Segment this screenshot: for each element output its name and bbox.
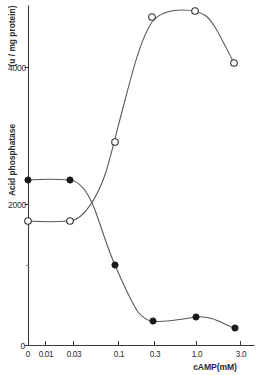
open-series-curve xyxy=(28,10,234,222)
filled-marker-0.03 xyxy=(67,177,73,183)
y-axis-title-units: (u / mg protein) xyxy=(7,5,17,66)
x-axis-title: cAMP(mM) xyxy=(193,362,237,372)
filled-marker-0.1 xyxy=(112,262,118,268)
x-tick-label-1.0: 1.0 xyxy=(192,350,203,359)
open-marker-0.1 xyxy=(112,139,119,146)
x-tick-label-0.3: 0.3 xyxy=(150,350,161,359)
open-marker-0 xyxy=(25,218,32,225)
filled-marker-0.3 xyxy=(150,318,156,324)
x-tick-label-0: 0 xyxy=(26,350,31,359)
y-tick-label-2000: 2000 xyxy=(8,200,27,210)
open-marker-3.0 xyxy=(231,60,238,67)
filled-marker-1.0 xyxy=(193,314,199,320)
filled-marker-0 xyxy=(25,177,31,183)
open-marker-0.03 xyxy=(67,218,74,225)
y-tick-label-0: 0 xyxy=(20,341,25,351)
x-tick-label-0.01: 0.01 xyxy=(39,350,54,359)
chart-figure: 4000 2000 0 0 0.01 0.03 0.1 0.3 1.0 3.0 … xyxy=(0,0,257,375)
x-tick-label-0.03: 0.03 xyxy=(67,350,82,359)
filled-series-curve xyxy=(28,179,235,328)
x-tick-label-3.0: 3.0 xyxy=(236,350,247,359)
acid-phosphatase-vs-camp-chart: 4000 2000 0 0 0.01 0.03 0.1 0.3 1.0 3.0 … xyxy=(0,0,257,375)
open-marker-1.0 xyxy=(192,8,199,15)
y-axis-title-main: Acid phosphatase xyxy=(7,124,17,196)
x-tick-label-0.1: 0.1 xyxy=(114,350,125,359)
open-marker-0.3 xyxy=(149,14,156,21)
filled-marker-3.0 xyxy=(232,325,238,331)
